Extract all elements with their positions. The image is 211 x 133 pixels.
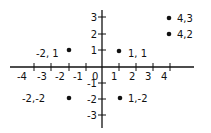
x-tick-label: -1 xyxy=(73,71,83,82)
x-tick-label: 1 xyxy=(111,71,117,82)
y-tick-label: 1 xyxy=(91,45,97,56)
x-tick-label: -3 xyxy=(37,71,47,82)
x-tick-label: 4 xyxy=(161,71,167,82)
point-label: -2,-2 xyxy=(22,93,45,104)
y-tick-label: 3 xyxy=(91,12,97,23)
point-label: 1,-2 xyxy=(128,93,148,104)
data-points xyxy=(67,16,172,101)
x-tick-label: 2 xyxy=(129,71,135,82)
point-4-3 xyxy=(167,16,172,21)
point-1-1 xyxy=(117,49,122,54)
point-label: 1, 1 xyxy=(128,48,147,59)
point-label: -2, 1 xyxy=(36,48,59,59)
x-tick-label: 3 xyxy=(145,71,151,82)
y-tick-label: -1 xyxy=(87,78,97,89)
y-tick-label: -2 xyxy=(87,94,97,105)
point-4-2 xyxy=(167,32,172,37)
point-neg2-1 xyxy=(67,48,72,53)
point-label: 4,3 xyxy=(177,13,193,24)
point-neg2-neg2 xyxy=(67,96,72,101)
x-tick-label: -4 xyxy=(17,71,27,82)
point-label: 4,2 xyxy=(177,29,193,40)
y-tick-label: 2 xyxy=(91,29,97,40)
point-1-neg2 xyxy=(118,96,123,101)
coordinate-plane: -4 -3 -2 -1 0 1 2 3 4 3 2 1 -1 -2 -3 xyxy=(0,0,211,133)
point-labels: 4,3 4,2 -2, 1 1, 1 -2,-2 1,-2 xyxy=(22,13,193,104)
y-tick-label: -3 xyxy=(87,110,97,121)
x-tick-label: -2 xyxy=(55,71,65,82)
